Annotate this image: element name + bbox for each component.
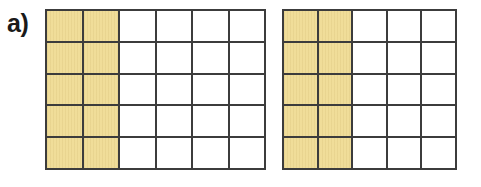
grid-cell-empty — [120, 75, 157, 107]
grid-cell-empty — [388, 75, 423, 107]
grid-cell-shaded — [84, 75, 121, 107]
grid-cell-empty — [422, 75, 457, 107]
grid-cell-empty — [230, 138, 267, 170]
grid-cell-shaded — [47, 43, 84, 75]
grid-cell-empty — [120, 106, 157, 138]
grid-cell-empty — [422, 106, 457, 138]
grid-cell-shaded — [47, 75, 84, 107]
grid-cell-shaded — [84, 43, 121, 75]
grid-cell-shaded — [284, 11, 319, 43]
grid-cell-empty — [388, 106, 423, 138]
grid-cell-empty — [157, 43, 194, 75]
grid-cell-shaded — [84, 138, 121, 170]
grid-cell-shaded — [84, 106, 121, 138]
grid-cell-empty — [120, 43, 157, 75]
grid-cell-empty — [193, 106, 230, 138]
grid-cell-empty — [388, 11, 423, 43]
grid-cell-shaded — [284, 106, 319, 138]
grid-cell-shaded — [284, 138, 319, 170]
grid-cell-empty — [422, 43, 457, 75]
grid-cell-empty — [230, 11, 267, 43]
grid-cell-shaded — [319, 106, 354, 138]
grid-cell-empty — [157, 106, 194, 138]
grid-cell-shaded — [284, 43, 319, 75]
grid-cell-empty — [157, 75, 194, 107]
grid-cell-empty — [230, 106, 267, 138]
grid-cell-empty — [120, 11, 157, 43]
grid-cell-empty — [120, 138, 157, 170]
grid-cell-shaded — [284, 75, 319, 107]
grid-cell-empty — [353, 11, 388, 43]
grid-cell-shaded — [319, 138, 354, 170]
fraction-grids-figure: a) — [0, 0, 481, 187]
grid-cell-empty — [193, 138, 230, 170]
grid-cell-shaded — [319, 11, 354, 43]
grid-cell-shaded — [47, 11, 84, 43]
grid-cell-empty — [388, 138, 423, 170]
grid-cell-empty — [353, 106, 388, 138]
grid-cell-empty — [230, 75, 267, 107]
grid-cell-empty — [353, 138, 388, 170]
grid-cell-empty — [193, 75, 230, 107]
grid-cell-empty — [353, 75, 388, 107]
right-grid — [282, 9, 457, 170]
grid-cell-shaded — [47, 138, 84, 170]
grid-cell-shaded — [84, 11, 121, 43]
grid-cell-empty — [193, 11, 230, 43]
part-label: a) — [7, 9, 28, 37]
grid-cell-shaded — [319, 43, 354, 75]
grid-cell-empty — [422, 138, 457, 170]
grid-cell-empty — [422, 11, 457, 43]
grid-cell-empty — [353, 43, 388, 75]
grid-cell-shaded — [319, 75, 354, 107]
grid-cell-empty — [157, 11, 194, 43]
grid-cell-empty — [388, 43, 423, 75]
grid-cell-empty — [230, 43, 267, 75]
grid-cell-shaded — [47, 106, 84, 138]
left-grid — [45, 9, 266, 170]
grid-cell-empty — [157, 138, 194, 170]
grid-cell-empty — [193, 43, 230, 75]
